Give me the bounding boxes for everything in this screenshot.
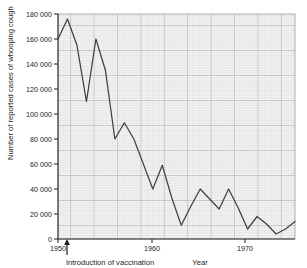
y-tick-labels: 180 000 160 000 140 000 120 000 100 000 … (26, 10, 52, 244)
x-tick-label: 1960 (144, 244, 160, 253)
whooping-cough-chart-figure: 180 000 160 000 140 000 120 000 100 000 … (0, 0, 307, 268)
y-tick-label: 20 000 (30, 210, 52, 219)
plot-area-background (58, 14, 295, 239)
y-tick-label: 0 (48, 235, 52, 244)
y-tick-label: 100 000 (26, 110, 52, 119)
x-tick-label: 1970 (237, 244, 253, 253)
x-axis (58, 239, 295, 243)
x-axis-title: Year (192, 258, 208, 267)
y-tick-label: 120 000 (26, 85, 52, 94)
y-tick-label: 80 000 (30, 135, 52, 144)
x-tick-label: 1950 (50, 244, 66, 253)
y-tick-label: 180 000 (26, 10, 52, 19)
y-tick-label: 60 000 (30, 160, 52, 169)
chart-canvas: 180 000 160 000 140 000 120 000 100 000 … (0, 0, 307, 268)
y-tick-label: 140 000 (26, 60, 52, 69)
y-axis (54, 14, 58, 239)
vaccination-annotation-label: Introduction of vaccination (66, 258, 154, 267)
y-tick-label: 40 000 (30, 185, 52, 194)
y-tick-label: 160 000 (26, 35, 52, 44)
y-axis-title: Number of reported cases of whooping cou… (6, 6, 15, 160)
x-tick-labels: 1950 1960 1970 (50, 244, 253, 253)
